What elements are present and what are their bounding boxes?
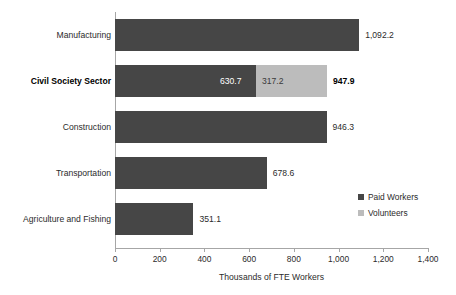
x-tick-400 bbox=[204, 248, 205, 252]
x-tick-label: 400 bbox=[179, 254, 229, 264]
bar-total-value: 351.1 bbox=[199, 203, 221, 235]
x-tick-1,200 bbox=[383, 248, 384, 252]
legend-label: Paid Workers bbox=[368, 192, 418, 202]
legend-swatch-icon bbox=[358, 194, 364, 200]
bar-segment-paid-workers bbox=[115, 203, 193, 235]
segment-value-volunteers: 317.2 bbox=[262, 65, 284, 97]
x-axis-line bbox=[115, 248, 428, 249]
legend-item[interactable]: Volunteers bbox=[358, 208, 418, 218]
x-tick-label: 800 bbox=[269, 254, 319, 264]
category-label: Civil Society Sector bbox=[0, 65, 111, 97]
x-tick-label: 1,000 bbox=[314, 254, 364, 264]
x-tick-label: 1,400 bbox=[403, 254, 453, 264]
x-tick-1,000 bbox=[339, 248, 340, 252]
category-label: Manufacturing bbox=[0, 19, 111, 51]
x-tick-600 bbox=[249, 248, 250, 252]
x-axis-title: Thousands of FTE Workers bbox=[115, 272, 428, 282]
category-label: Transportation bbox=[0, 157, 111, 189]
category-label: Construction bbox=[0, 111, 111, 143]
bar-segment-paid-workers bbox=[115, 19, 359, 51]
x-tick-0 bbox=[115, 248, 116, 252]
bar-segment-paid-workers bbox=[115, 111, 327, 143]
x-tick-label: 1,200 bbox=[358, 254, 408, 264]
bar-row: Construction946.3 bbox=[0, 111, 456, 143]
x-tick-800 bbox=[294, 248, 295, 252]
x-tick-1,400 bbox=[428, 248, 429, 252]
x-tick-label: 600 bbox=[224, 254, 274, 264]
bar-row: Civil Society Sector630.7317.2947.9 bbox=[0, 65, 456, 97]
bar-total-value: 678.6 bbox=[273, 157, 295, 189]
legend-swatch-icon bbox=[358, 210, 364, 216]
bar-chart: Manufacturing1,092.2Civil Society Sector… bbox=[0, 0, 456, 295]
bar-segment-paid-workers bbox=[115, 157, 267, 189]
legend-label: Volunteers bbox=[368, 208, 408, 218]
bar-total-value: 947.9 bbox=[333, 65, 355, 97]
legend-item[interactable]: Paid Workers bbox=[358, 192, 418, 202]
segment-value-paid-workers: 630.7 bbox=[220, 65, 242, 97]
category-label: Agriculture and Fishing bbox=[0, 203, 111, 235]
bar-total-value: 1,092.2 bbox=[365, 19, 394, 51]
bar-row: Manufacturing1,092.2 bbox=[0, 19, 456, 51]
x-tick-200 bbox=[160, 248, 161, 252]
chart-legend: Paid WorkersVolunteers bbox=[358, 192, 418, 224]
bar-row: Transportation678.6 bbox=[0, 157, 456, 189]
x-tick-label: 0 bbox=[90, 254, 140, 264]
bar-total-value: 946.3 bbox=[333, 111, 355, 143]
x-tick-label: 200 bbox=[135, 254, 185, 264]
